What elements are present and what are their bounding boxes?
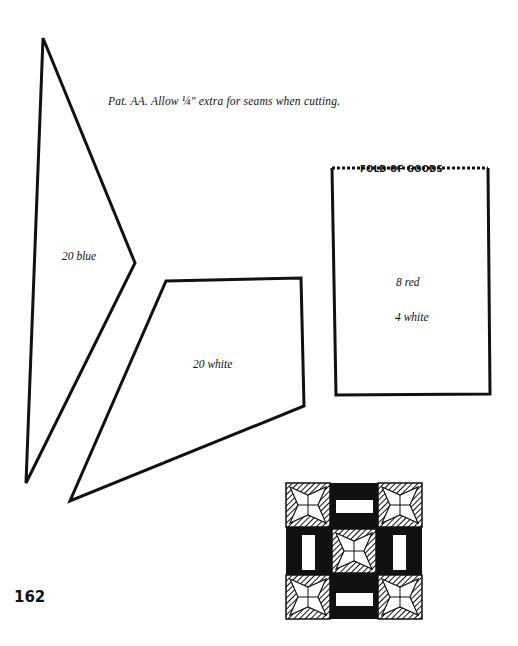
- quad-piece-label: 20 white: [193, 358, 232, 370]
- pattern-page: Pat. AA. Allow ¼" extra for seams when c…: [0, 0, 518, 646]
- rect-piece-label-red: 8 red: [396, 276, 420, 288]
- quad-pattern-piece: [70, 278, 304, 501]
- quilt-block-diagram: [286, 483, 422, 619]
- triangle-piece-label: 20 blue: [62, 250, 96, 262]
- page-number: 162: [14, 588, 45, 606]
- fold-of-goods-label: FOLD OF GOODS: [360, 164, 443, 174]
- rect-piece-label-white: 4 white: [395, 311, 429, 323]
- pattern-caption: Pat. AA. Allow ¼" extra for seams when c…: [108, 95, 340, 107]
